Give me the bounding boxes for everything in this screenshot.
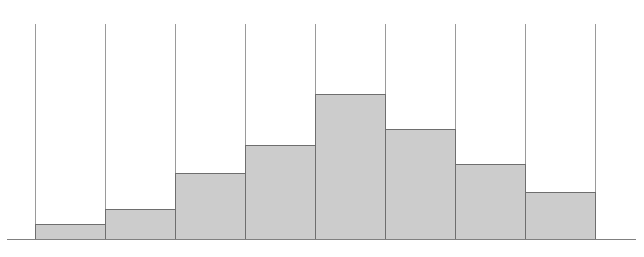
bar-6 (386, 130, 456, 240)
bar-4 (246, 146, 316, 240)
histogram-chart (0, 0, 644, 257)
bar-8 (526, 193, 596, 240)
chart-svg (0, 0, 644, 257)
bar-2 (106, 210, 176, 240)
bar-7 (456, 165, 526, 240)
bar-3 (176, 174, 246, 240)
bar-1 (36, 225, 106, 240)
bar-5 (316, 95, 386, 240)
plot-area (0, 0, 644, 257)
